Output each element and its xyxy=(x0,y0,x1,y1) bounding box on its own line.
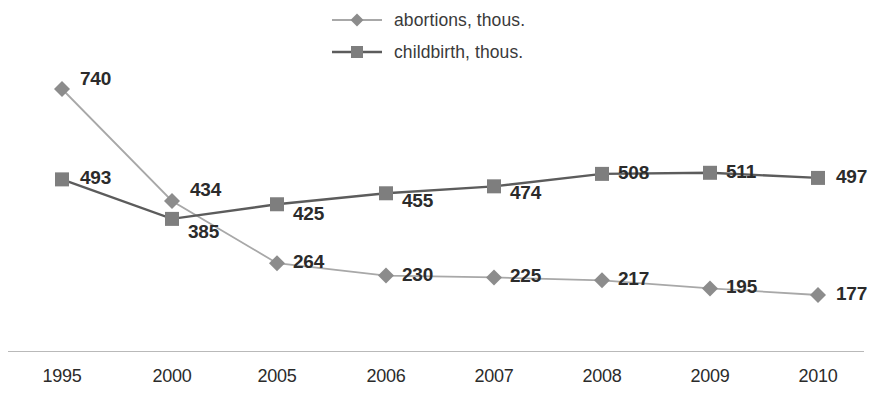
data-point-marker[interactable] xyxy=(595,167,609,181)
data-point-label: 425 xyxy=(293,203,324,225)
data-point-label: 497 xyxy=(836,166,867,188)
data-point-marker[interactable] xyxy=(810,287,826,303)
data-point-marker[interactable] xyxy=(269,255,285,271)
data-point-marker[interactable] xyxy=(165,212,179,226)
plot-area xyxy=(0,0,872,398)
data-point-marker[interactable] xyxy=(703,166,717,180)
data-point-label: 493 xyxy=(80,167,111,189)
x-tick-label: 2006 xyxy=(366,366,405,387)
data-point-marker[interactable] xyxy=(270,197,284,211)
data-point-label: 217 xyxy=(618,268,649,290)
data-point-label: 455 xyxy=(402,190,433,212)
data-point-label: 434 xyxy=(190,179,221,201)
data-point-label: 230 xyxy=(402,264,433,286)
line-chart: abortions, thous. childbirth, thous. 740… xyxy=(0,0,872,398)
data-point-marker[interactable] xyxy=(486,269,502,285)
data-point-label: 740 xyxy=(80,68,111,90)
data-point-label: 195 xyxy=(726,276,757,298)
data-point-marker[interactable] xyxy=(811,171,825,185)
data-point-label: 508 xyxy=(618,162,649,184)
x-axis-line xyxy=(8,351,864,352)
data-point-marker[interactable] xyxy=(702,280,718,296)
data-point-label: 225 xyxy=(510,265,541,287)
x-tick-label: 2005 xyxy=(257,366,296,387)
data-point-marker[interactable] xyxy=(594,272,610,288)
data-point-label: 511 xyxy=(726,161,756,183)
x-tick-label: 1995 xyxy=(42,366,81,387)
series-line-abortions xyxy=(62,89,818,295)
data-point-label: 177 xyxy=(836,283,867,305)
data-point-marker[interactable] xyxy=(379,186,393,200)
x-tick-label: 2000 xyxy=(152,366,191,387)
data-point-label: 385 xyxy=(188,221,219,243)
data-point-label: 474 xyxy=(510,182,541,204)
data-point-marker[interactable] xyxy=(487,179,501,193)
data-point-marker[interactable] xyxy=(55,172,69,186)
x-tick-label: 2007 xyxy=(474,366,513,387)
x-tick-label: 2009 xyxy=(690,366,729,387)
data-point-marker[interactable] xyxy=(378,268,394,284)
data-point-label: 264 xyxy=(293,251,324,273)
x-tick-label: 2010 xyxy=(798,366,837,387)
x-tick-label: 2008 xyxy=(582,366,621,387)
